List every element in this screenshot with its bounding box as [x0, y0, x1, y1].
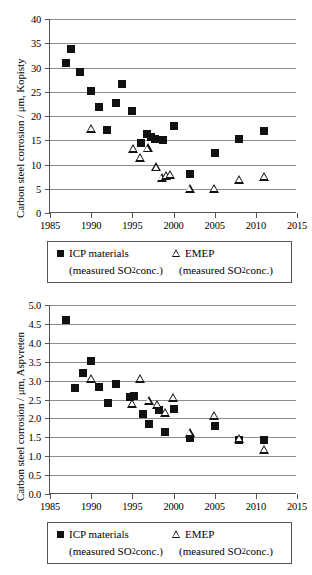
- y-axis-tick-label: 40: [31, 14, 41, 25]
- x-axis-tick-label: 1995: [122, 501, 142, 512]
- data-point: [95, 103, 103, 111]
- legend-icp-sub-pre: (measured SO: [69, 264, 132, 276]
- x-axis-tick-label: 2015: [287, 501, 307, 512]
- data-point: [127, 399, 137, 408]
- y-axis-tick-label: 0: [36, 208, 41, 219]
- y-axis-tick-label: 25: [31, 86, 41, 97]
- legend-sublabel-icp: (measured SO2 conc.): [69, 545, 163, 557]
- gridline: [50, 418, 296, 419]
- data-point: [259, 445, 269, 454]
- gridline: [50, 68, 296, 69]
- filled-square-icon: [57, 250, 64, 257]
- x-axis-tick-label: 2015: [287, 220, 307, 231]
- y-axis-tick-label: 1.5: [28, 432, 41, 443]
- x-axis-tick: [256, 494, 257, 499]
- x-axis-tick: [215, 494, 216, 499]
- y-axis-tick-label: 4.0: [28, 337, 41, 348]
- legend-emep-sub-pre: (measured SO: [179, 264, 242, 276]
- data-point: [87, 87, 95, 95]
- y-axis-tick: [45, 381, 50, 382]
- legend-emep-sub-post: conc.): [246, 545, 273, 557]
- y-axis-tick-label: 5: [36, 183, 41, 194]
- legend-label-icp: ICP materials: [69, 247, 129, 259]
- data-point: [112, 380, 120, 388]
- data-point: [87, 357, 95, 365]
- y-axis-tick-label: 2.5: [28, 394, 41, 405]
- data-point: [86, 124, 96, 133]
- legend-label-emep: EMEP: [185, 247, 214, 259]
- data-point: [234, 434, 244, 443]
- y-axis-tick-label: 3.5: [28, 356, 41, 367]
- data-point: [151, 162, 161, 171]
- data-point: [185, 184, 195, 193]
- gridline: [50, 43, 296, 44]
- x-axis-tick: [50, 213, 51, 218]
- x-axis-tick: [256, 213, 257, 218]
- data-point: [128, 144, 138, 153]
- y-axis-tick-label: 35: [31, 38, 41, 49]
- y-axis-tick: [45, 400, 50, 401]
- filled-square-icon: [57, 531, 64, 538]
- chart-kopisty: Carbon steel corrosion / μm, Kopisty 051…: [0, 0, 312, 287]
- gridline: [50, 475, 296, 476]
- x-axis-tick-label: 1985: [40, 220, 60, 231]
- y-axis-title-aspvreten: Carbon steel corrosion / μm, Aspvreten: [14, 332, 26, 501]
- data-point: [104, 399, 112, 407]
- gridline: [50, 116, 296, 117]
- data-point: [139, 410, 147, 418]
- legend-label-emep: EMEP: [185, 528, 214, 540]
- data-point: [161, 428, 169, 436]
- chart-aspvreten: Carbon steel corrosion / μm, Aspvreten 0…: [0, 287, 312, 575]
- y-axis-tick-label: 10: [31, 159, 41, 170]
- legend-emep-sub-pre: (measured SO: [179, 545, 242, 557]
- data-point: [135, 153, 145, 162]
- data-point: [103, 126, 111, 134]
- y-axis-tick: [45, 362, 50, 363]
- x-axis-tick-label: 2010: [246, 501, 266, 512]
- data-point: [62, 316, 70, 324]
- data-point: [211, 149, 219, 157]
- gridline: [50, 165, 296, 166]
- x-axis-tick-label: 2005: [205, 501, 225, 512]
- data-point: [145, 420, 153, 428]
- legend-entry-emep: EMEP: [172, 247, 214, 259]
- data-point: [95, 383, 103, 391]
- gridline: [50, 456, 296, 457]
- x-axis-tick-label: 2010: [246, 220, 266, 231]
- x-axis-tick: [50, 494, 51, 499]
- y-axis-tick-label: 0.5: [28, 470, 41, 481]
- data-point: [260, 127, 268, 135]
- y-axis-tick: [45, 92, 50, 93]
- data-point: [118, 80, 126, 88]
- y-axis-tick: [45, 165, 50, 166]
- gridline: [50, 189, 296, 190]
- data-point: [67, 45, 75, 53]
- legend-emep-sub-post: conc.): [246, 264, 273, 276]
- x-axis-tick-label: 1995: [122, 220, 142, 231]
- data-point: [259, 172, 269, 181]
- legend-icp-sub-pre: (measured SO: [69, 545, 132, 557]
- data-point: [260, 436, 268, 444]
- data-point: [112, 99, 120, 107]
- data-point: [159, 136, 167, 144]
- x-axis-tick: [132, 213, 133, 218]
- y-axis-tick-label: 2.0: [28, 413, 41, 424]
- data-point: [209, 184, 219, 193]
- x-axis-tick-label: 1985: [40, 501, 60, 512]
- legend-sublabel-icp: (measured SO2 conc.): [69, 264, 163, 276]
- x-axis-tick-label: 2000: [163, 220, 183, 231]
- y-axis-tick-label: 0.0: [28, 489, 41, 500]
- data-point: [76, 68, 84, 76]
- y-axis-tick-label: 4.5: [28, 318, 41, 329]
- x-axis-tick-label: 2000: [163, 501, 183, 512]
- x-axis-tick: [215, 213, 216, 218]
- open-triangle-icon: [172, 530, 180, 538]
- y-axis-tick: [45, 140, 50, 141]
- y-axis-tick-label: 30: [31, 62, 41, 73]
- legend-icp-sub-post: conc.): [136, 545, 163, 557]
- y-axis-tick: [45, 116, 50, 117]
- legend-entry-icp: ICP materials: [57, 247, 129, 259]
- y-axis-tick: [45, 343, 50, 344]
- y-axis-tick-label: 1.0: [28, 451, 41, 462]
- gridline: [50, 305, 296, 306]
